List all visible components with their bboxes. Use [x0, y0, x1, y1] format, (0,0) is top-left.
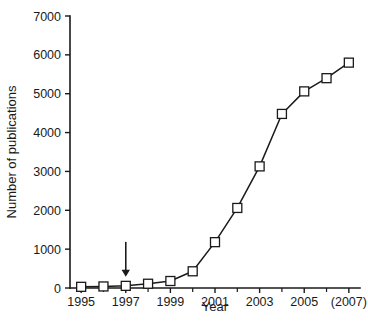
data-point-marker	[300, 87, 309, 96]
data-point-marker	[277, 109, 286, 118]
x-axis-tick-label: 2005	[290, 295, 318, 309]
x-axis-tick-label: 1995	[67, 295, 95, 309]
y-axis-title: Number of publications	[4, 85, 19, 218]
data-point-marker	[255, 162, 264, 171]
y-axis-tick-label: 3000	[33, 165, 61, 179]
data-point-marker	[233, 203, 242, 212]
x-axis-tick-label: 2003	[246, 295, 274, 309]
x-axis-title: Year	[202, 299, 229, 314]
data-point-marker	[121, 281, 130, 290]
y-axis-tick-label: 7000	[33, 10, 61, 24]
x-axis-tick-label: 1999	[156, 295, 184, 309]
data-point-marker	[322, 74, 331, 83]
x-axis-tick-label: 1997	[112, 295, 140, 309]
data-point-marker	[166, 277, 175, 286]
data-point-marker	[344, 58, 353, 67]
y-axis-tick-label: 6000	[33, 48, 61, 62]
data-point-marker	[211, 238, 220, 247]
publications-growth-chart: 0100020003000400050006000700019951997199…	[0, 0, 368, 321]
data-point-marker	[144, 279, 153, 288]
chart-canvas: 0100020003000400050006000700019951997199…	[0, 0, 368, 321]
data-point-marker	[77, 282, 86, 291]
y-axis-tick-label: 2000	[33, 204, 61, 218]
y-axis-tick-label: 4000	[33, 126, 61, 140]
y-axis-tick-label: 0	[54, 282, 61, 296]
data-point-marker	[99, 282, 108, 291]
y-axis-tick-label: 1000	[33, 243, 61, 257]
x-axis-tick-label: (2007)	[331, 295, 367, 309]
data-point-marker	[188, 267, 197, 276]
annotation-arrow-head	[122, 270, 130, 277]
y-axis-tick-label: 5000	[33, 87, 61, 101]
